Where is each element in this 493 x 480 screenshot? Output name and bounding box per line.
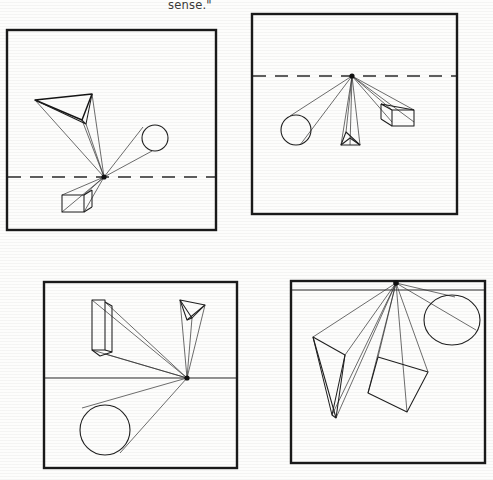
- panel-2-frame: [252, 14, 457, 214]
- panel-4: [291, 280, 485, 463]
- panel-4-cylinder: [424, 295, 480, 345]
- panel-2-vanishing-point: [349, 73, 354, 78]
- panel-1-vanishing-point: [101, 174, 106, 179]
- perspective-figure: [0, 0, 493, 480]
- panel-1-cylinder: [142, 125, 168, 151]
- panel-3-frame: [44, 282, 237, 468]
- panel-1-wedge: [35, 94, 92, 124]
- panel-1-convergence-rays: [35, 94, 152, 212]
- panel-1-frame: [7, 30, 216, 230]
- drawing-page: sense.": [0, 0, 493, 480]
- panel-3-cylinder: [80, 405, 130, 455]
- panel-4-cube: [368, 357, 428, 412]
- panel-4-wedge: [313, 337, 345, 418]
- panel-2-cylinder: [281, 115, 311, 145]
- panel-3-vanishing-point: [184, 375, 189, 380]
- panel-3: [44, 282, 237, 468]
- panel-4-vanishing-point: [393, 280, 399, 286]
- panel-4-frame: [291, 281, 485, 463]
- panel-2: [252, 14, 457, 214]
- panel-1: [7, 30, 216, 230]
- panel-3-wedge: [180, 300, 205, 320]
